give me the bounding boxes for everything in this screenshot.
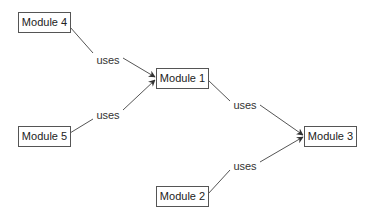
node-module-4: Module 4 — [18, 12, 71, 33]
node-module-5: Module 5 — [18, 126, 71, 147]
dependency-diagram: Module 4 Module 5 Module 1 Module 2 Modu… — [0, 0, 374, 219]
node-module-2: Module 2 — [156, 186, 209, 207]
edge-label-m2-m3: uses — [232, 160, 257, 173]
node-module-3: Module 3 — [304, 126, 357, 147]
edge-label-m1-m3: uses — [232, 99, 257, 112]
node-module-1: Module 1 — [156, 68, 209, 89]
edge-m4-m1 — [70, 27, 155, 77]
edge-label-m5-m1: uses — [95, 109, 120, 122]
edge-label-m4-m1: uses — [95, 54, 120, 67]
edge-m5-m1 — [70, 80, 155, 133]
